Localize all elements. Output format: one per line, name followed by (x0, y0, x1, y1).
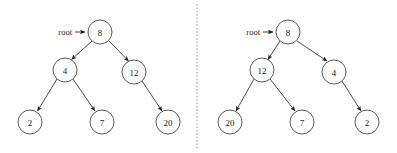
right-node-right-right-value: 2 (365, 118, 370, 128)
left-tree-panel: root 8 4 12 2 (18, 20, 180, 134)
left-root-pointer-label: root (58, 27, 72, 37)
left-edge-12-to-20 (142, 81, 162, 111)
binary-tree-figure: root 8 4 12 2 (0, 0, 397, 153)
left-node-left-right: 7 (90, 110, 114, 134)
left-node-left-left-value: 2 (28, 118, 33, 128)
right-edge-4-to-2 (342, 81, 361, 111)
left-edge-8-to-12 (109, 41, 129, 61)
right-node-right-right: 2 (355, 110, 379, 134)
left-node-left-right-value: 7 (100, 118, 105, 128)
right-node-root-value: 8 (286, 28, 291, 38)
right-edge-12-to-7 (270, 79, 295, 111)
left-node-root-value: 8 (98, 28, 103, 38)
right-node-left-child: 12 (250, 58, 274, 82)
left-node-right-right: 20 (156, 110, 180, 134)
left-node-right-child-value: 12 (130, 68, 139, 78)
left-node-left-child: 4 (53, 58, 77, 82)
left-node-root: 8 (88, 20, 112, 44)
right-edge-8-to-4 (297, 41, 327, 61)
right-node-root: 8 (276, 20, 300, 44)
right-node-left-child-value: 12 (258, 66, 267, 76)
left-node-right-right-value: 20 (164, 118, 174, 128)
right-node-left-left-value: 20 (226, 118, 236, 128)
left-node-right-child: 12 (122, 60, 146, 84)
right-node-right-child: 4 (322, 60, 346, 84)
left-edge-8-to-4 (72, 41, 93, 60)
tree-diagram-canvas: root 8 4 12 2 (0, 0, 397, 153)
right-tree-panel: root 8 12 4 20 (218, 20, 379, 134)
right-edge-8-to-12 (268, 41, 280, 60)
right-node-left-right: 7 (290, 110, 314, 134)
right-root-pointer-label: root (246, 27, 260, 37)
right-node-right-child-value: 4 (332, 68, 337, 78)
left-node-left-child-value: 4 (63, 66, 68, 76)
right-edge-12-to-20 (236, 79, 254, 111)
left-edge-4-to-7 (73, 79, 95, 111)
right-node-left-right-value: 7 (300, 118, 305, 128)
left-edge-4-to-2 (38, 79, 58, 111)
left-node-left-left: 2 (18, 110, 42, 134)
right-node-left-left: 20 (218, 110, 242, 134)
